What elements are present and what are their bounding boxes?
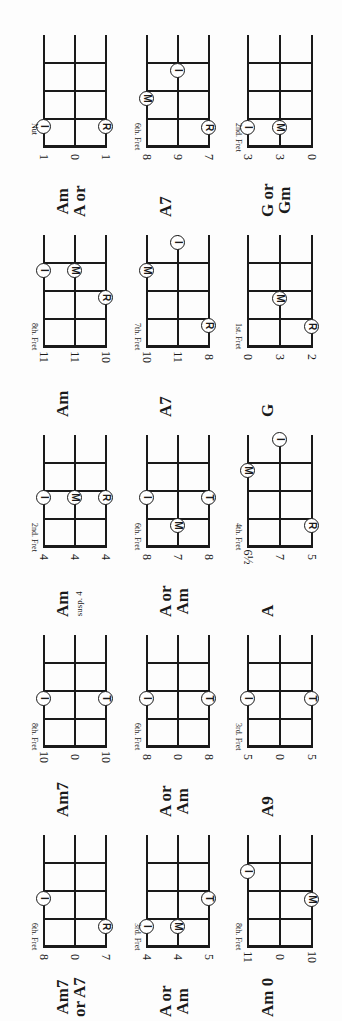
finger-dot-i: I [36,891,51,906]
chord-name-line1: Am7 [54,782,71,817]
fret-line [146,862,210,864]
string-fret-number: 7 [172,547,184,567]
fret-line [146,290,210,292]
fret-line [146,262,210,264]
fret-position-label: 6th. Fret [133,123,142,150]
chord-diagram-r5c1: IR8076th. FretAm7or A7 [43,835,143,1021]
chord-diagram-r3c2: IMT8786th. FretA orAm [146,435,246,625]
string-fret-number: 0 [242,347,254,367]
string-fret-number: 7 [203,147,215,167]
string-fret-number: 10 [38,747,50,767]
chord-diagram-r1c1: IR101NutAmA or [43,35,143,225]
fret-line [146,662,210,664]
string-fret-number: 4 [172,947,184,967]
chord-name-line2: A or [71,185,88,217]
fret-line [146,490,210,492]
string-fret-number: 5 [203,947,215,967]
fret-line [247,462,313,464]
finger-dot-m: M [272,291,287,306]
finger-dot-r: R [98,919,113,934]
string-fret-number: 10 [141,347,153,367]
chord-diagram-r1c3: IM3302nd. FretG orGm [247,35,342,225]
chord-name: A orAm [157,585,191,617]
string-fret-number: 8 [141,147,153,167]
fret-position-label: Nut [30,123,39,135]
fret-line [146,90,210,92]
fret-line [247,890,313,892]
finger-dot-i: I [139,490,154,505]
string-fret-number: 3 [274,347,286,367]
chord-name: Am7 [54,782,71,817]
chord-name: A7 [157,196,174,217]
chord-name-line2: susp. 4 [71,591,88,617]
string-fret-number: 9 [172,147,184,167]
string-fret-number: 0 [172,747,184,767]
finger-dot-i: I [272,432,287,447]
chord-diagram-r4c3: IT5053rd. FretA9 [247,635,342,825]
finger-dot-r: R [98,119,113,134]
string-fret-number: 11 [69,347,81,367]
fret-position-label: 1st. Fret [234,323,243,349]
fret-position-label: 6th. Fret [133,523,142,550]
chord-name-line2: Am [174,585,191,617]
string-fret-number: 0 [274,947,286,967]
chord-name-line1: A or [157,585,174,617]
fret-line [146,890,210,892]
fret-line [43,690,107,692]
finger-dot-m: M [272,120,287,135]
chord-name: Am [54,391,71,417]
fret-line [43,290,107,292]
chord-name-line1: G [259,404,276,417]
chord-name-line2: or A7 [71,977,88,1017]
fret-line [247,262,313,264]
string-fret-number: 8 [38,947,50,967]
chord-diagram-r5c2: IMT4453rd. FretA orAm [146,835,246,1021]
fret-line [43,318,107,320]
fret-line [43,518,107,520]
finger-dot-r: R [98,490,113,505]
finger-dot-i: I [240,864,255,879]
chord-diagram-r1c2: MIR8976th. FretA7 [146,35,246,225]
chord-name: Am7or A7 [54,977,88,1017]
string-fret-number: 8 [203,747,215,767]
fret-line [247,62,313,64]
chord-name-line2: Gm [276,183,293,217]
string-fret-number: 1 [100,147,112,167]
finger-dot-r: R [304,518,319,533]
fret-line [43,462,107,464]
fret-line [247,318,313,320]
finger-dot-r: R [201,120,216,135]
string-fret-number: 11 [242,947,254,967]
string-fret-number: 0 [69,147,81,167]
fret-line [43,862,107,864]
finger-dot-i: I [170,235,185,250]
fret-position-label: 6th. Fret [30,923,39,950]
chord-name-line1: Am [54,591,71,617]
chord-diagram-r4c2: IT8086th. FretA orAm [146,635,246,825]
string-fret-number: 10 [100,347,112,367]
chord-diagram-r5c3: IM110108th. FretAm 0 [247,835,342,1021]
string-fret-number: 11 [172,347,184,367]
finger-dot-i: I [36,490,51,505]
string-fret-number: 11 [38,347,50,367]
fret-position-label: 6th. Fret [133,723,142,750]
chord-name-line1: Am 0 [259,978,276,1017]
string-fret-number: 10 [100,747,112,767]
fret-position-label: 7th. Fret [133,323,142,350]
fret-position-label: 8th. Fret [234,923,243,950]
chord-name-line1: A or [157,785,174,817]
chord-name-line1: A [259,605,276,617]
fret-position-label: 4th. Fret [234,523,243,550]
string-fret-number: 8 [141,747,153,767]
fret-line [247,90,313,92]
finger-dot-t: T [201,691,216,706]
string-fret-number: 3 [242,147,254,167]
string-fret-number: 0 [69,747,81,767]
chord-diagram-r2c1: IMR1111108th. FretAm [43,235,143,425]
fret-line [146,718,210,720]
fret-line [247,490,313,492]
fret-line [43,890,107,892]
chord-name: G [259,404,276,417]
finger-dot-i: I [170,63,185,78]
chord-diagram-r2c3: MR0321st. FretG [247,235,342,425]
